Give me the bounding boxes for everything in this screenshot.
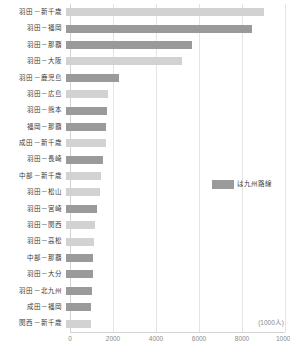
bar-kyushu bbox=[66, 41, 192, 49]
bar-track bbox=[66, 86, 290, 102]
bar-kyushu bbox=[66, 254, 93, 262]
bar-category-label: 成田－福岡 bbox=[0, 304, 66, 311]
bar-other bbox=[66, 90, 108, 98]
bar-category-label: 成田－新千歳 bbox=[0, 140, 66, 147]
bar-kyushu bbox=[66, 205, 97, 213]
bar-category-label: 羽田－松山 bbox=[0, 189, 66, 196]
legend-label-kyushu: は九州路線 bbox=[237, 181, 272, 188]
x-tick-label: 6000 bbox=[192, 336, 206, 343]
x-tick-label: 4000 bbox=[149, 336, 163, 343]
bar-track bbox=[66, 217, 290, 233]
bar-category-label: 羽田－鹿児島 bbox=[0, 75, 66, 82]
bar-track bbox=[66, 4, 290, 20]
bar-row: 羽田－福岡 bbox=[0, 20, 290, 36]
bar-category-label: 羽田－大阪 bbox=[0, 58, 66, 65]
bar-row: 羽田－高松 bbox=[0, 233, 290, 249]
bar-row: 羽田－鹿児島 bbox=[0, 70, 290, 86]
bar-kyushu bbox=[66, 74, 119, 82]
bar-row: 羽田－大分 bbox=[0, 266, 290, 282]
bar-category-label: 中部－那覇 bbox=[0, 255, 66, 262]
bar-other bbox=[66, 221, 95, 229]
bar-rows: 羽田－新千歳羽田－福岡羽田－那覇羽田－大阪羽田－鹿児島羽田－広島羽田－熊本福岡－… bbox=[0, 4, 290, 332]
bar-row: 羽田－北九州 bbox=[0, 283, 290, 299]
x-axis-baseline bbox=[70, 332, 285, 333]
bar-category-label: 羽田－関西 bbox=[0, 222, 66, 229]
bar-category-label: 福岡－那覇 bbox=[0, 124, 66, 131]
bar-category-label: 羽田－大分 bbox=[0, 271, 66, 278]
bar-row: 中部－那覇 bbox=[0, 250, 290, 266]
bar-category-label: 羽田－熊本 bbox=[0, 107, 66, 114]
bar-track bbox=[66, 70, 290, 86]
bar-category-label: 羽田－長崎 bbox=[0, 156, 66, 163]
bar-track bbox=[66, 53, 290, 69]
bar-category-label: 羽田－広島 bbox=[0, 91, 66, 98]
bar-row: 羽田－広島 bbox=[0, 86, 290, 102]
bar-track bbox=[66, 37, 290, 53]
bar-other bbox=[66, 172, 101, 180]
bar-row: 成田－新千歳 bbox=[0, 135, 290, 151]
bar-row: 羽田－熊本 bbox=[0, 102, 290, 118]
bar-row: 羽田－那覇 bbox=[0, 37, 290, 53]
bar-row: 羽田－新千歳 bbox=[0, 4, 290, 20]
bar-row: 成田－福岡 bbox=[0, 299, 290, 315]
x-tick-label: 0 bbox=[68, 336, 72, 343]
bar-category-label: 羽田－那覇 bbox=[0, 42, 66, 49]
bar-other bbox=[66, 320, 91, 328]
x-tick-label: 2000 bbox=[106, 336, 120, 343]
bar-category-label: 関西－新千歳 bbox=[0, 320, 66, 327]
bar-category-label: 羽田－北九州 bbox=[0, 288, 66, 295]
bar-track bbox=[66, 201, 290, 217]
bar-kyushu bbox=[66, 287, 92, 295]
bar-kyushu bbox=[66, 303, 91, 311]
bar-track bbox=[66, 315, 290, 331]
bar-category-label: 羽田－福岡 bbox=[0, 25, 66, 32]
bar-track bbox=[66, 102, 290, 118]
bar-category-label: 中部－新千歳 bbox=[0, 173, 66, 180]
bar-track bbox=[66, 135, 290, 151]
axis-unit-label: (1000人) bbox=[258, 320, 284, 327]
bar-row: 福岡－那覇 bbox=[0, 119, 290, 135]
legend: は九州路線 bbox=[212, 180, 272, 189]
bar-kyushu bbox=[66, 25, 252, 33]
bar-other bbox=[66, 188, 100, 196]
x-tick-label: 10000 bbox=[276, 336, 290, 343]
bar-row: 羽田－長崎 bbox=[0, 152, 290, 168]
bar-row: 関西－新千歳 bbox=[0, 315, 290, 331]
bar-other bbox=[66, 139, 106, 147]
bar-chart: 羽田－新千歳羽田－福岡羽田－那覇羽田－大阪羽田－鹿児島羽田－広島羽田－熊本福岡－… bbox=[0, 0, 290, 359]
bar-track bbox=[66, 299, 290, 315]
bar-row: 羽田－大阪 bbox=[0, 53, 290, 69]
bar-track bbox=[66, 119, 290, 135]
bar-other bbox=[66, 57, 182, 65]
legend-swatch-kyushu bbox=[212, 180, 234, 189]
bar-track bbox=[66, 152, 290, 168]
bar-category-label: 羽田－高松 bbox=[0, 238, 66, 245]
bar-kyushu bbox=[66, 156, 103, 164]
x-tick-label: 8000 bbox=[235, 336, 249, 343]
bar-track bbox=[66, 250, 290, 266]
bar-row: 羽田－宮崎 bbox=[0, 201, 290, 217]
bar-other bbox=[66, 8, 264, 16]
bar-track bbox=[66, 266, 290, 282]
bar-category-label: 羽田－新千歳 bbox=[0, 9, 66, 16]
bar-row: 羽田－関西 bbox=[0, 217, 290, 233]
bar-other bbox=[66, 238, 94, 246]
bar-kyushu bbox=[66, 270, 93, 278]
bar-track bbox=[66, 20, 290, 36]
bar-kyushu bbox=[66, 123, 106, 131]
x-axis-tick-labels: 0200040006000800010000 bbox=[0, 336, 290, 350]
bar-track bbox=[66, 283, 290, 299]
bar-category-label: 羽田－宮崎 bbox=[0, 206, 66, 213]
bar-track bbox=[66, 233, 290, 249]
bar-kyushu bbox=[66, 107, 107, 115]
